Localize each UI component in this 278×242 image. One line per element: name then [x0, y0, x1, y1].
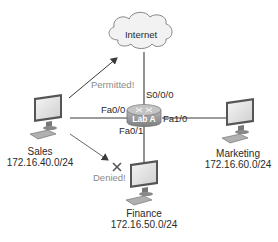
- computer-icon-finance: [126, 160, 158, 205]
- computer-icon-sales: [30, 94, 62, 139]
- interface-fa0-1: Fa0/1: [119, 125, 143, 136]
- router-label: Lab A: [132, 114, 155, 125]
- internet-label: Internet: [125, 29, 157, 41]
- computer-icon-marketing: [222, 98, 254, 143]
- finance-subnet: 172.16.50.0/24: [111, 219, 178, 231]
- denied-x-icon: [113, 163, 121, 171]
- permitted-arrow: [69, 58, 117, 98]
- interface-fa0-0: Fa0/0: [101, 104, 125, 115]
- marketing-subnet: 172.16.60.0/24: [205, 159, 272, 171]
- denied-arrow: [70, 134, 108, 160]
- sales-subnet: 172.16.40.0/24: [7, 157, 74, 169]
- interface-fa1-0: Fa1/0: [163, 113, 187, 124]
- interface-s0-0-0: S0/0/0: [146, 89, 173, 100]
- network-diagram: Internet Lab A S0/0/0 Fa0/0 Fa1/0 Fa0/1 …: [0, 0, 278, 242]
- denied-annotation: Denied!: [93, 172, 126, 183]
- permitted-annotation: Permitted!: [91, 79, 134, 90]
